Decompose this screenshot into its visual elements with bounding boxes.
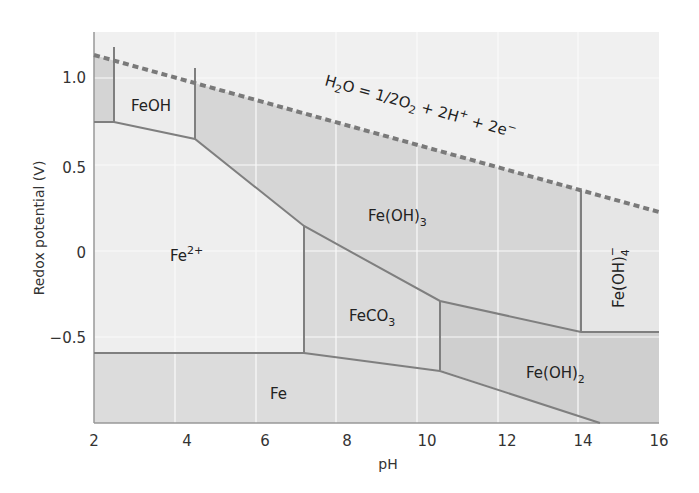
y-axis-label: Redox potential (V) bbox=[31, 161, 47, 296]
x-tick-16: 16 bbox=[649, 432, 668, 450]
x-axis-label: pH bbox=[378, 456, 397, 472]
pourbaix-diagram: H2O = 1/2O2 + 2H+ + 2e− FeOH Fe2+ Fe(OH)… bbox=[0, 0, 699, 493]
x-tick-6: 6 bbox=[260, 432, 270, 450]
x-tick-8: 8 bbox=[342, 432, 352, 450]
label-feoh: FeOH bbox=[131, 97, 171, 115]
y-tick-1.0: 1.0 bbox=[62, 69, 86, 87]
x-tick-4: 4 bbox=[182, 432, 192, 450]
x-tick-10: 10 bbox=[417, 432, 436, 450]
y-tick-0.5: 0.5 bbox=[62, 159, 86, 177]
region-left-sliver bbox=[94, 55, 114, 122]
y-tick-neg0.5: −0.5 bbox=[50, 329, 86, 347]
x-tick-2: 2 bbox=[89, 432, 99, 450]
x-tick-12: 12 bbox=[497, 432, 516, 450]
x-tick-14: 14 bbox=[573, 432, 592, 450]
y-tick-0: 0 bbox=[76, 244, 86, 262]
label-fe: Fe bbox=[270, 385, 287, 403]
